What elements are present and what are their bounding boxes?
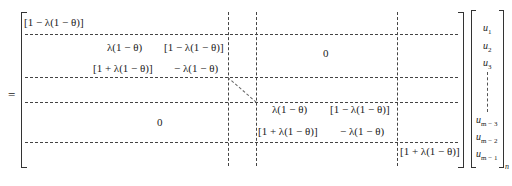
dashed-vline-1 (228, 12, 229, 166)
block-r1c1: [1 − λ(1 − θ)] (24, 17, 84, 28)
vector-entry-1: u1 (483, 22, 492, 36)
vector-entry-5: um − 2 (476, 131, 497, 145)
diagonal-ellipsis (227, 77, 256, 103)
vector-outer-subscript: n (505, 162, 509, 171)
vector-entry-6: um − 1 (476, 148, 497, 162)
dashed-hline-2 (25, 77, 458, 78)
dashed-vline-3 (397, 12, 398, 166)
block-last: [1 + λ(1 − θ)] (400, 146, 460, 157)
block-r4-a11: λ(1 − θ) (272, 104, 307, 115)
dashed-hline-1 (25, 34, 458, 35)
matrix-left-bracket (21, 12, 27, 168)
block-r2-a22: − λ(1 − θ) (174, 63, 218, 74)
block-r2-a21: [1 + λ(1 − θ)] (93, 63, 153, 74)
dashed-hline-4 (25, 142, 458, 143)
dashed-hline-3 (25, 102, 458, 103)
vertical-ellipsis (487, 72, 488, 112)
vector-entry-2: u2 (483, 40, 492, 54)
vector-right-bracket (499, 10, 504, 168)
vector-entry-4: um − 3 (476, 114, 497, 128)
block-r4-a22: − λ(1 − θ) (340, 126, 384, 137)
zero-bottom-left: 0 (157, 117, 163, 128)
dashed-vline-2 (256, 12, 257, 166)
block-r4-a21: [1 + λ(1 − θ)] (258, 126, 318, 137)
block-r4-a12: [1 − λ(1 − θ)] (330, 104, 390, 115)
block-r2-a12: [1 − λ(1 − θ)] (164, 42, 224, 53)
vector-entry-3: u3 (483, 57, 492, 71)
block-r2-a11: λ(1 − θ) (107, 42, 142, 53)
equals-sign: = (8, 87, 15, 103)
zero-top-right: 0 (323, 48, 329, 59)
